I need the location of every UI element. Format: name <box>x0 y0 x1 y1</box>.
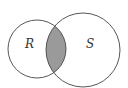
label-r: R <box>24 37 34 51</box>
venn-svg: R S <box>0 0 128 88</box>
label-s: S <box>86 37 94 51</box>
venn-diagram: R S <box>0 0 128 88</box>
